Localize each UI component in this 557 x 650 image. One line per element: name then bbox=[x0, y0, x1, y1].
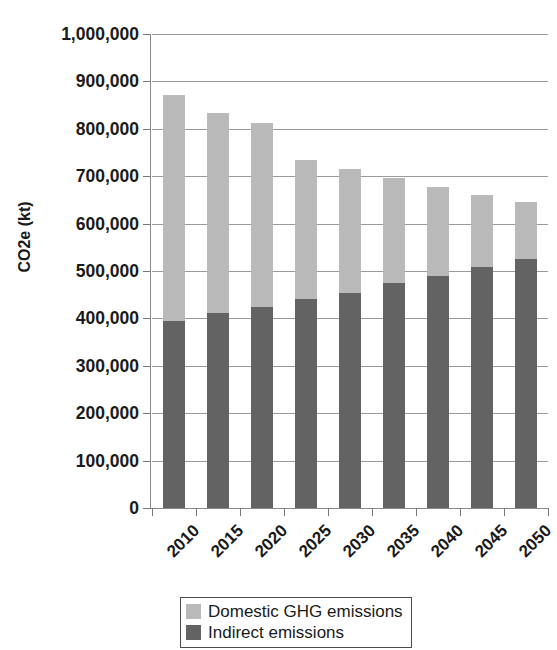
legend-label-domestic: Domestic GHG emissions bbox=[208, 603, 403, 620]
legend-swatch-indirect bbox=[186, 625, 201, 640]
bar-segment-domestic bbox=[339, 169, 361, 293]
chart-legend: Domestic GHG emissions Indirect emission… bbox=[180, 597, 412, 648]
x-axis-line bbox=[150, 508, 548, 509]
y-tick-label: 0 bbox=[129, 498, 139, 519]
y-tick-label: 600,000 bbox=[76, 213, 139, 234]
legend-label-indirect: Indirect emissions bbox=[208, 624, 344, 641]
y-tick-label: 900,000 bbox=[76, 71, 139, 92]
x-tick-label: 2050 bbox=[515, 521, 556, 562]
y-tick-mark bbox=[143, 413, 151, 414]
y-tick-mark bbox=[143, 81, 151, 82]
bar-2035 bbox=[383, 178, 405, 508]
y-tick-label: 500,000 bbox=[76, 261, 139, 282]
bar-segment-domestic bbox=[295, 160, 317, 300]
y-tick-label: 800,000 bbox=[76, 118, 139, 139]
bar-2015 bbox=[207, 113, 229, 508]
y-tick-label: 700,000 bbox=[76, 166, 139, 187]
bar-2010 bbox=[163, 95, 185, 508]
y-tick-mark bbox=[143, 34, 151, 35]
bar-segment-domestic bbox=[207, 113, 229, 313]
stacked-bar-chart: CO2e (kt) 0100,000200,000300,000400,0005… bbox=[0, 0, 557, 650]
x-tick-mark bbox=[152, 508, 153, 516]
bar-segment-domestic bbox=[471, 195, 493, 268]
y-tick-label: 300,000 bbox=[76, 355, 139, 376]
y-tick-label: 200,000 bbox=[76, 403, 139, 424]
bar-segment-indirect bbox=[383, 283, 405, 508]
y-tick-label: 1,000,000 bbox=[61, 24, 139, 45]
bar-segment-indirect bbox=[207, 313, 229, 508]
bar-segment-indirect bbox=[339, 293, 361, 508]
bar-segment-indirect bbox=[251, 307, 273, 508]
x-tick-label: 2025 bbox=[295, 521, 336, 562]
plot-area: 0100,000200,000300,000400,000500,000600,… bbox=[152, 34, 548, 508]
legend-item-indirect: Indirect emissions bbox=[186, 622, 403, 643]
bar-segment-indirect bbox=[471, 267, 493, 508]
y-tick-mark bbox=[143, 271, 151, 272]
bar-segment-indirect bbox=[515, 259, 537, 508]
y-tick-mark bbox=[143, 224, 151, 225]
y-axis-title: CO2e (kt) bbox=[16, 157, 34, 317]
bar-segment-indirect bbox=[163, 321, 185, 508]
y-tick-mark bbox=[143, 461, 151, 462]
y-tick-mark bbox=[143, 366, 151, 367]
x-tick-label: 2045 bbox=[471, 521, 512, 562]
x-tick-label: 2020 bbox=[251, 521, 292, 562]
y-tick-label: 400,000 bbox=[76, 308, 139, 329]
y-tick-mark bbox=[143, 318, 151, 319]
x-tick-mark bbox=[460, 508, 461, 516]
x-tick-mark bbox=[548, 508, 549, 516]
y-tick-label: 100,000 bbox=[76, 450, 139, 471]
y-tick-mark bbox=[143, 129, 151, 130]
x-tick-mark bbox=[504, 508, 505, 516]
bar-2045 bbox=[471, 195, 493, 508]
x-tick-mark bbox=[372, 508, 373, 516]
y-tick-mark bbox=[143, 508, 151, 509]
bar-2025 bbox=[295, 160, 317, 508]
x-tick-label: 2035 bbox=[383, 521, 424, 562]
bar-segment-indirect bbox=[295, 299, 317, 508]
bar-segment-domestic bbox=[251, 123, 273, 307]
x-tick-label: 2030 bbox=[339, 521, 380, 562]
bar-2020 bbox=[251, 123, 273, 508]
legend-swatch-domestic bbox=[186, 604, 201, 619]
y-tick-mark bbox=[143, 176, 151, 177]
bar-segment-domestic bbox=[383, 178, 405, 283]
bar-2050 bbox=[515, 202, 537, 508]
x-tick-label: 2040 bbox=[427, 521, 468, 562]
gridline bbox=[152, 34, 548, 35]
x-tick-mark bbox=[416, 508, 417, 516]
gridline bbox=[152, 81, 548, 82]
legend-item-domestic: Domestic GHG emissions bbox=[186, 601, 403, 622]
x-tick-label: 2015 bbox=[207, 521, 248, 562]
bar-segment-domestic bbox=[163, 95, 185, 321]
x-tick-mark bbox=[196, 508, 197, 516]
x-tick-mark bbox=[328, 508, 329, 516]
bar-segment-indirect bbox=[427, 276, 449, 508]
bar-segment-domestic bbox=[515, 202, 537, 258]
x-tick-label: 2010 bbox=[163, 521, 204, 562]
bar-2040 bbox=[427, 187, 449, 508]
bar-segment-domestic bbox=[427, 187, 449, 276]
bar-2030 bbox=[339, 169, 361, 508]
x-tick-mark bbox=[240, 508, 241, 516]
x-tick-mark bbox=[284, 508, 285, 516]
